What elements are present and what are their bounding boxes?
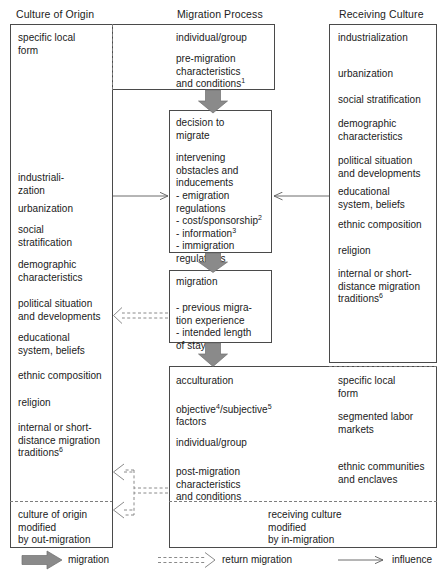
header-culture-of-origin: Culture of Origin bbox=[16, 8, 94, 20]
acculturation-factors: factors bbox=[176, 416, 321, 429]
origin-item-educational-system: educational system, beliefs bbox=[18, 332, 113, 357]
receiving-item-educational-system: educational system, beliefs bbox=[338, 186, 438, 211]
legend-migration-arrow-glyph bbox=[22, 551, 62, 569]
receiving-item-internal-migration-traditions: internal or short- distance migration tr… bbox=[338, 268, 438, 306]
receiving-item-demographic-characteristics: demographic characteristics bbox=[338, 118, 438, 143]
pre-migration-individual-group: individual/group bbox=[176, 32, 272, 45]
legend-return-migration-arrow-glyph bbox=[158, 553, 215, 568]
return-migration-arrow-from-migration-box bbox=[114, 308, 169, 324]
receiving-item-religion: religion bbox=[338, 245, 438, 258]
decision-bullet-emigration: - emigration regulations bbox=[176, 190, 270, 215]
migration-bullet-previous-experience: - previous migra- tion experience bbox=[176, 302, 272, 327]
origin-item-social-stratification: social stratification bbox=[18, 224, 113, 249]
receiving-outcome-ethnic-communities: ethnic communities and enclaves bbox=[338, 461, 443, 486]
legend-label-return-migration: return migration bbox=[222, 554, 292, 565]
decision-bullet-information: - information3 bbox=[176, 228, 270, 241]
acculturation-heading: acculturation bbox=[176, 375, 316, 388]
header-migration-process: Migration Process bbox=[177, 8, 263, 20]
acculturation-objective-subjective: objective4/subjective5 bbox=[176, 404, 321, 417]
header-receiving-culture: Receiving Culture bbox=[339, 8, 424, 20]
diagram-canvas: Culture of Origin Migration Process Rece… bbox=[0, 0, 443, 576]
receiving-item-ethnic-composition: ethnic composition bbox=[338, 219, 438, 232]
origin-top-item: specific local form bbox=[18, 32, 113, 57]
legend-label-influence: influence bbox=[392, 554, 432, 565]
receiving-item-urbanization: urbanization bbox=[338, 68, 438, 81]
return-migration-arrow-from-acculturation bbox=[114, 464, 169, 518]
legend-label-migration: migration bbox=[68, 554, 109, 565]
receiving-outcome-top-dashed-edge bbox=[329, 366, 437, 367]
receiving-outcome-specific-local-form: specific local form bbox=[338, 375, 438, 400]
pre-migration-characteristics: pre-migration characteristics and condit… bbox=[176, 53, 272, 91]
receiving-item-industrialization: industrialization bbox=[338, 32, 438, 45]
origin-item-urbanization: urbanization bbox=[18, 203, 113, 216]
origin-outcome-divider bbox=[10, 501, 113, 502]
origin-item-religion: religion bbox=[18, 397, 113, 410]
decision-subheading: intervening obstacles and inducements bbox=[176, 152, 270, 190]
receiving-item-political-situation: political situation and developments bbox=[338, 155, 438, 180]
origin-outcome-text: culture of origin modified by out-migrat… bbox=[18, 509, 113, 547]
origin-item-internal-migration-traditions: internal or short- distance migration tr… bbox=[18, 422, 113, 460]
receiving-outcome-segmented-labor-markets: segmented labor markets bbox=[338, 411, 438, 436]
migration-heading: migration bbox=[176, 276, 270, 289]
origin-item-ethnic-composition: ethnic composition bbox=[18, 370, 113, 383]
acculturation-individual-group: individual/group bbox=[176, 437, 321, 450]
acculturation-post-migration: post-migration characteristics and condi… bbox=[176, 466, 321, 504]
origin-item-political-situation: political situation and developments bbox=[18, 298, 113, 323]
receiving-outcome-text: receiving culture modified by in-migrati… bbox=[268, 509, 428, 547]
origin-item-demographic-characteristics: demographic characteristics bbox=[18, 259, 113, 284]
migration-bullet-intended-length: - intended length of stay bbox=[176, 327, 272, 352]
origin-culture-box bbox=[10, 24, 113, 548]
decision-heading: decision to migrate bbox=[176, 117, 270, 142]
decision-bullet-immigration: - immigration regulations bbox=[176, 240, 270, 265]
decision-bullet-cost-sponsorship: - cost/sponsorship2 bbox=[176, 215, 274, 228]
receiving-item-social-stratification: social stratification bbox=[338, 94, 438, 107]
origin-item-industrialization: industriali- zation bbox=[18, 172, 113, 197]
